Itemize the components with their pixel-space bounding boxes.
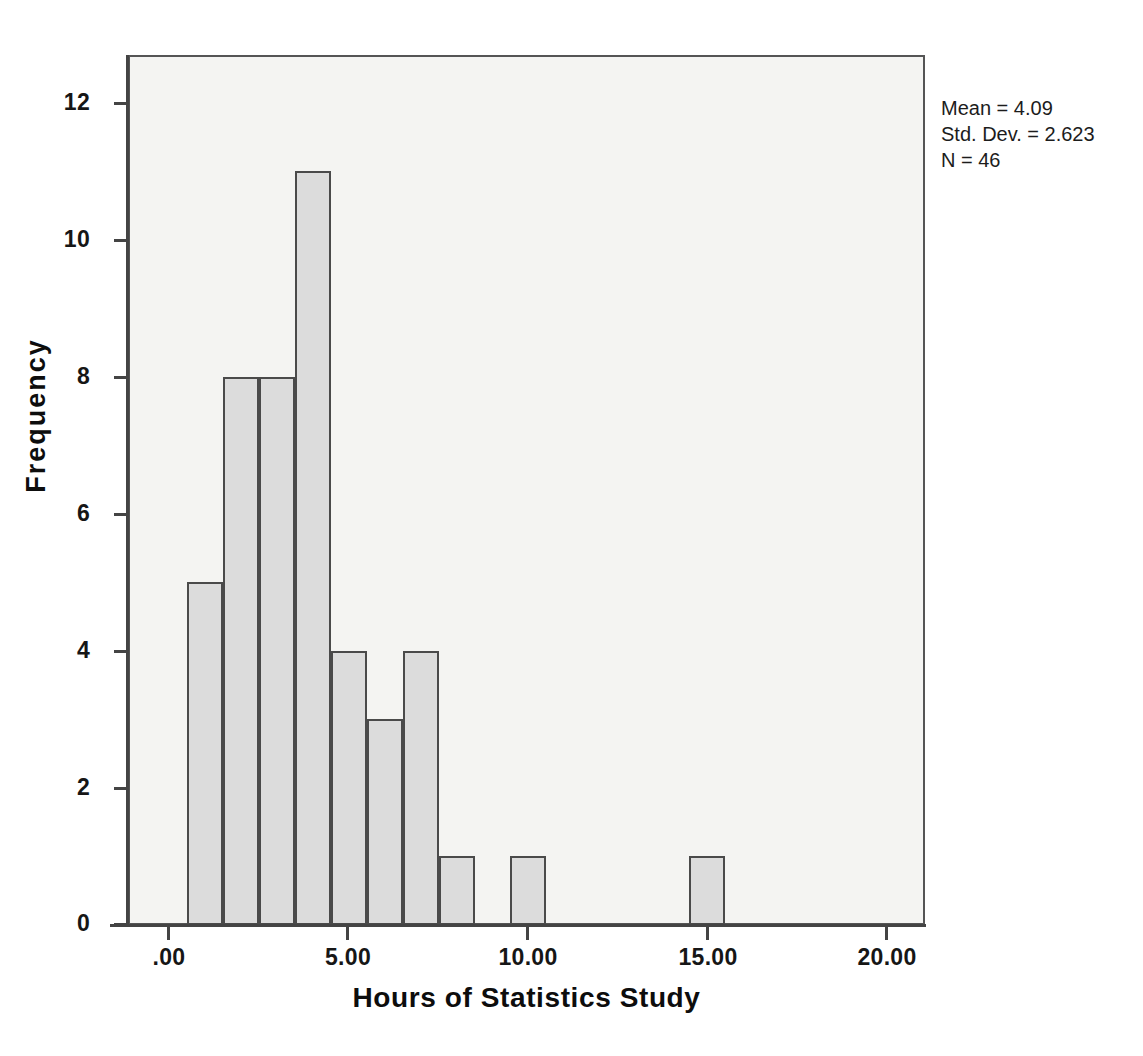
x-axis-tick bbox=[346, 926, 349, 940]
stat-n: N = 46 bbox=[941, 147, 1095, 173]
x-axis-tick bbox=[706, 926, 709, 940]
y-axis-tick-label: 4 bbox=[30, 637, 90, 664]
y-axis-tick bbox=[114, 650, 127, 653]
y-axis-tick-label: 12 bbox=[30, 89, 90, 116]
x-axis-tick-label: 5.00 bbox=[288, 944, 408, 971]
x-axis-tick-label: 20.00 bbox=[827, 944, 947, 971]
x-axis-tick-label: 15.00 bbox=[648, 944, 768, 971]
y-axis-title: Frequency bbox=[21, 316, 52, 516]
y-axis-tick-label: 2 bbox=[30, 774, 90, 801]
y-axis-tick bbox=[114, 787, 127, 790]
histogram-figure: 12 10 8 6 4 2 0 Frequency .00 5.00 10.00… bbox=[0, 0, 1143, 1056]
y-axis-tick bbox=[114, 239, 127, 242]
x-axis-tick-label: 10.00 bbox=[468, 944, 588, 971]
stat-mean: Mean = 4.09 bbox=[941, 95, 1095, 121]
y-axis-tick bbox=[114, 102, 127, 105]
x-axis-tick bbox=[885, 926, 888, 940]
y-axis-tick-label: 10 bbox=[30, 226, 90, 253]
x-axis-title: Hours of Statistics Study bbox=[128, 982, 925, 1014]
stat-std-dev: Std. Dev. = 2.623 bbox=[941, 121, 1095, 147]
x-axis-tick-label: .00 bbox=[109, 944, 229, 971]
statistics-annotation: Mean = 4.09 Std. Dev. = 2.623 N = 46 bbox=[941, 95, 1095, 173]
x-axis-line bbox=[110, 924, 926, 927]
y-axis-line bbox=[126, 55, 129, 927]
y-axis-tick bbox=[114, 513, 127, 516]
y-axis-tick bbox=[114, 376, 127, 379]
x-axis-tick bbox=[526, 926, 529, 940]
x-axis-tick bbox=[167, 926, 170, 940]
plot-area bbox=[128, 55, 925, 925]
y-axis-tick-label: 0 bbox=[30, 910, 90, 937]
